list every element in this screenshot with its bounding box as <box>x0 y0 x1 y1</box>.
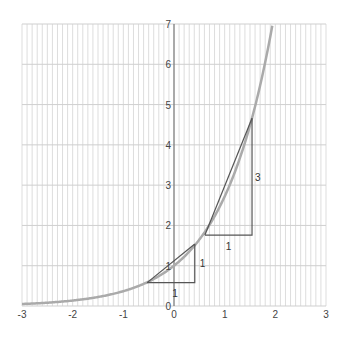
small-rise-label: 1 <box>200 258 206 269</box>
x-tick-label: -1 <box>119 309 128 320</box>
y-tick-label: 4 <box>165 140 171 151</box>
y-tick-label: 7 <box>165 19 171 30</box>
x-tick-label: -2 <box>68 309 77 320</box>
x-tick-label: -3 <box>18 309 27 320</box>
y-tick-label: 2 <box>165 220 171 231</box>
exponential-chart: -3-2-1012312345670 1113 <box>0 0 348 339</box>
x-tick-label: 2 <box>273 309 279 320</box>
x-tick-label: 3 <box>323 309 329 320</box>
large-rise-label: 3 <box>255 172 261 183</box>
y-tick-label: 5 <box>165 100 171 111</box>
x-tick-label: 1 <box>222 309 228 320</box>
x-tick-label: 0 <box>171 309 177 320</box>
y-tick-label: 1 <box>165 261 171 272</box>
y-tick-label: 0 <box>165 301 171 312</box>
small-run-label: 1 <box>172 288 178 299</box>
large-run-label: 1 <box>226 241 232 252</box>
y-tick-label: 6 <box>165 59 171 70</box>
y-tick-label: 3 <box>165 180 171 191</box>
